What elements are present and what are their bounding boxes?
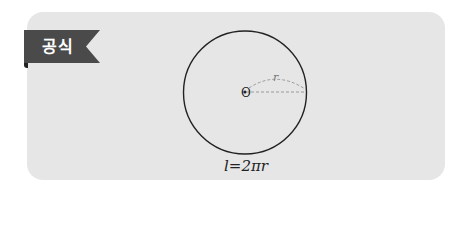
circumference-formula: l=2πr bbox=[208, 157, 284, 175]
center-label: O bbox=[241, 87, 251, 99]
radius-label: r bbox=[273, 72, 278, 83]
